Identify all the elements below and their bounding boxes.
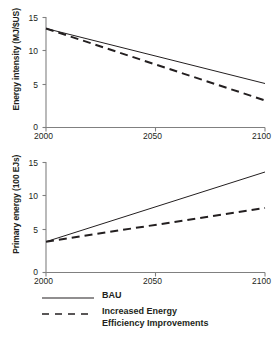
legend-label-bau: BAU — [96, 290, 122, 302]
legend-label-efficiency: Increased Energy Efficiency Improvements — [96, 306, 209, 329]
legend: BAU Increased Energy Efficiency Improvem… — [0, 288, 273, 337]
legend-item-bau: BAU — [40, 290, 122, 302]
series-line-bau-top — [46, 29, 265, 84]
plot-area-bottom — [0, 150, 273, 285]
chart-panel-energy-intensity: Energy intensity (MJ/$US) 15 10 5 0 — [0, 2, 273, 147]
x-ticklabel: 2100 — [252, 132, 271, 141]
x-ticklabel: 2000 — [34, 132, 53, 141]
x-ticklabel: 2100 — [252, 277, 271, 286]
legend-key-solid-line — [40, 290, 96, 302]
series-line-efficiency-top — [46, 29, 265, 101]
figure: Energy intensity (MJ/$US) 15 10 5 0 — [0, 0, 273, 337]
legend-key-dashed-line — [40, 306, 96, 318]
series-line-efficiency-bottom — [46, 208, 265, 242]
legend-item-efficiency: Increased Energy Efficiency Improvements — [40, 306, 209, 329]
x-ticklabel: 2000 — [34, 277, 53, 286]
chart-panel-primary-energy: Primary energy (100 EJs) 15 10 5 0 2000 … — [0, 150, 273, 280]
series-line-bau-bottom — [46, 172, 265, 242]
x-ticklabel: 2050 — [143, 132, 162, 141]
plot-area-top — [0, 2, 273, 142]
x-ticklabel: 2050 — [143, 277, 162, 286]
